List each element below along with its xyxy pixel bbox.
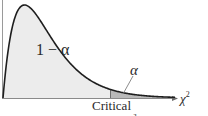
alpha-label: α xyxy=(130,62,139,78)
critical-label: Critical xyxy=(92,98,131,113)
x-axis-label: χ2 xyxy=(178,90,190,106)
alpha-leader-line xyxy=(123,76,133,94)
chi-square-diagram: 1 − α α χ2 Critical χ² xyxy=(0,0,208,116)
critical-sub-label: χ² xyxy=(127,111,137,116)
x-axis-label-sup: 2 xyxy=(186,90,190,99)
acceptance-label: 1 − α xyxy=(36,41,70,58)
